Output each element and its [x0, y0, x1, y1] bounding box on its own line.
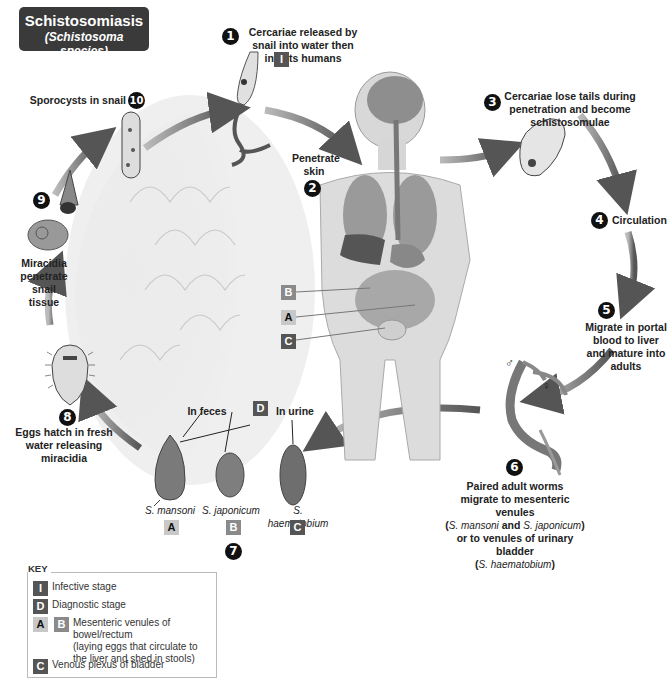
key-row-bladder: C Venous plexus of bladder [33, 659, 164, 674]
key-tag-a: A [33, 617, 48, 632]
species-mansoni: S. mansoni [449, 520, 499, 531]
species-japonicum: S. japonicum [523, 520, 581, 531]
step-2-label: Penetrate skin [292, 152, 336, 178]
diagnostic-stage-tag: D [253, 401, 268, 416]
step-6-line3: (S. mansoni and S. japonicum) [440, 519, 590, 532]
step-8-label: Eggs hatch in fresh water releasing mira… [4, 426, 124, 465]
key-mesenteric-line1: Mesenteric venules of bowel/rectum [73, 617, 170, 640]
step-9-label: Miracidia penetrate snail tissue [18, 257, 70, 309]
body-tag-b: B [281, 285, 296, 300]
step-4-label: Circulation [612, 214, 668, 227]
step-3-number: 3 [484, 94, 501, 111]
key-text-mesenteric: Mesenteric venules of bowel/rectum (layi… [73, 617, 216, 665]
key-row-infective: I Infective stage [33, 581, 116, 596]
step-10-label: Sporocysts in snail [26, 94, 126, 107]
key-tag-b: B [54, 617, 69, 632]
title-main: Schistosomiasis [19, 12, 149, 29]
key-title: KEY [28, 563, 51, 574]
title-subtitle: (Schistosoma species) [19, 30, 149, 58]
step-7-number: 7 [225, 543, 242, 560]
egg-tag-c: C [290, 520, 305, 535]
step-6-line2: migrate to mesenteric venules [440, 493, 590, 519]
step-2-number: 2 [304, 180, 321, 197]
step-10-number: 10 [128, 92, 145, 109]
step-3-label: Cercariae lose tails during penetration … [500, 90, 640, 129]
key-text-bladder: Venous plexus of bladder [52, 659, 164, 671]
step-5-number: 5 [598, 302, 615, 319]
egg-tag-b: B [226, 520, 241, 535]
step-5-label: Migrate in portal blood to liver and mat… [585, 321, 667, 373]
step-8-number: 8 [59, 409, 76, 426]
body-tag-a: A [281, 310, 296, 325]
egg-tag-a: A [164, 520, 179, 535]
body-tag-c: C [281, 334, 296, 349]
in-urine-label: In urine [270, 405, 320, 418]
step-6-and: and [502, 519, 521, 531]
adult-worms-illustration [510, 362, 566, 475]
step-9-number: 9 [33, 192, 50, 209]
female-symbol: ♀ [542, 379, 551, 393]
step-1-number: 1 [222, 28, 239, 45]
species-haematobium: S. haematobium [479, 559, 552, 570]
step-6-line4: or to venules of urinary bladder [440, 532, 590, 558]
step-6-line5: (S. haematobium) [440, 558, 590, 571]
key-text-infective: Infective stage [52, 581, 116, 593]
key-mesenteric-line2: (laying eggs that circulate to [73, 641, 198, 652]
key-row-diagnostic: D Diagnostic stage [33, 599, 126, 614]
step-6-number: 6 [506, 459, 523, 476]
key-tag-i: I [33, 581, 48, 596]
key-text-diagnostic: Diagnostic stage [52, 599, 126, 611]
key-tag-c: C [33, 659, 48, 674]
key-tag-d: D [33, 599, 48, 614]
sporocyst-illustration [122, 112, 140, 178]
infective-stage-tag: I [274, 52, 289, 67]
egg-species-japonicum: S. japonicum [200, 504, 262, 517]
legend-key: I Infective stage D Diagnostic stage A B… [27, 572, 217, 678]
egg-species-mansoni: S. mansoni [140, 504, 200, 517]
in-feces-label: In feces [182, 405, 232, 418]
step-6-label: Paired adult worms migrate to mesenteric… [440, 480, 590, 571]
step-4-number: 4 [591, 212, 608, 229]
step-6-line1: Paired adult worms [440, 480, 590, 493]
diagram-title: Schistosomiasis (Schistosoma species) [19, 7, 149, 51]
step-1-label: Cercariae released by snail into water t… [238, 26, 368, 65]
key-row-mesenteric: A B Mesenteric venules of bowel/rectum (… [33, 617, 216, 665]
male-symbol: ♂ [505, 356, 514, 370]
